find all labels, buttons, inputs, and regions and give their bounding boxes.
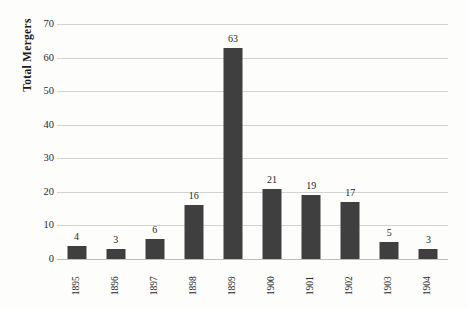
bar (184, 205, 203, 259)
x-tick-slot: 1904 (409, 259, 448, 309)
bar-value-label: 63 (228, 34, 238, 44)
y-tick-label: 10 (36, 220, 54, 231)
bar-chart-figure: Total Mergers 706050403020100 4361663211… (0, 0, 468, 309)
bar (302, 195, 321, 259)
bar-group: 21 (253, 24, 292, 259)
x-tick-label: 1900 (267, 266, 277, 306)
y-tick-label: 20 (36, 187, 54, 198)
x-tick-label: 1896 (111, 266, 121, 306)
x-tick-slot: 1900 (253, 259, 292, 309)
x-tick-label: 1901 (306, 266, 316, 306)
x-tick-slot: 1901 (292, 259, 331, 309)
x-tick-label: 1899 (228, 266, 238, 306)
bar-value-label: 3 (113, 235, 118, 245)
bar-group: 6 (135, 24, 174, 259)
x-axis-tick-labels: 1895189618971898189919001901190219031904 (57, 259, 448, 309)
x-tick-slot: 1895 (57, 259, 96, 309)
x-tick-label: 1895 (72, 266, 82, 306)
bar-value-label: 16 (189, 191, 199, 201)
bars-layer: 436166321191753 (57, 24, 448, 259)
bar-value-label: 17 (345, 188, 355, 198)
x-tick-label: 1903 (385, 266, 395, 306)
y-axis-title: Total Mergers (17, 0, 37, 110)
x-tick-slot: 1897 (135, 259, 174, 309)
bar-group: 16 (174, 24, 213, 259)
x-tick-label: 1898 (189, 266, 199, 306)
y-tick-label: 0 (36, 254, 54, 265)
y-tick-label: 60 (36, 52, 54, 63)
bar (263, 189, 282, 260)
bar-value-label: 5 (387, 228, 392, 238)
bar-value-label: 6 (152, 225, 157, 235)
x-tick-slot: 1896 (96, 259, 135, 309)
y-axis-tick-labels: 706050403020100 (36, 0, 54, 309)
bar (419, 249, 438, 259)
bar-group: 4 (57, 24, 96, 259)
bar-group: 5 (370, 24, 409, 259)
x-tick-slot: 1903 (370, 259, 409, 309)
bar-group: 63 (213, 24, 252, 259)
bar-value-label: 21 (267, 175, 277, 185)
y-tick-label: 30 (36, 153, 54, 164)
bar-group: 17 (331, 24, 370, 259)
y-tick-label: 50 (36, 86, 54, 97)
x-tick-label: 1902 (345, 266, 355, 306)
bar-value-label: 19 (306, 181, 316, 191)
y-tick-label: 40 (36, 119, 54, 130)
x-tick-slot: 1898 (174, 259, 213, 309)
x-tick-label: 1904 (424, 266, 434, 306)
bar-group: 3 (409, 24, 448, 259)
bar-value-label: 3 (426, 235, 431, 245)
bar-value-label: 4 (74, 232, 79, 242)
x-tick-slot: 1902 (331, 259, 370, 309)
bar (341, 202, 360, 259)
bar-group: 3 (96, 24, 135, 259)
x-tick-slot: 1899 (213, 259, 252, 309)
bar (106, 249, 125, 259)
bar-group: 19 (292, 24, 331, 259)
y-tick-label: 70 (36, 19, 54, 30)
x-tick-label: 1897 (150, 266, 160, 306)
bar (67, 246, 86, 259)
bar (145, 239, 164, 259)
bar (223, 48, 242, 260)
bar (380, 242, 399, 259)
